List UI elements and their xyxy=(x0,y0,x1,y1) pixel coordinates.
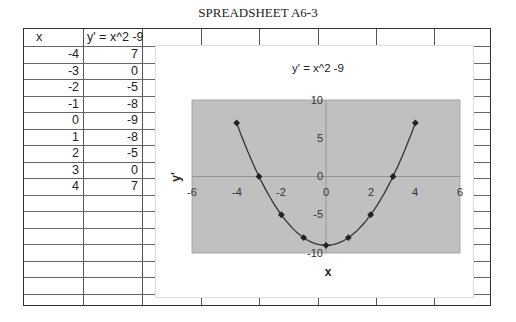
cell-x[interactable]: -3 xyxy=(24,63,79,79)
header-x: x xyxy=(36,29,42,45)
cell-x[interactable]: 2 xyxy=(24,145,79,161)
header-y: y' = x^2 -9 xyxy=(87,29,144,45)
y-tick-label: -5 xyxy=(313,208,323,220)
column-divider xyxy=(318,29,319,46)
y-tick-label: 0 xyxy=(317,170,323,182)
page-title: SPREADSHEET A6-3 xyxy=(0,5,516,21)
chart-title: y' = x^2 -9 xyxy=(292,62,344,74)
cell-x[interactable]: -4 xyxy=(24,46,79,62)
x-tick-label: 2 xyxy=(368,186,374,198)
column-divider xyxy=(201,29,202,46)
cell-y[interactable]: 7 xyxy=(83,46,138,62)
y-tick-label: -10 xyxy=(307,247,323,259)
column-divider xyxy=(259,29,260,46)
cell-y[interactable]: 7 xyxy=(83,178,138,194)
x-tick-label: 0 xyxy=(323,186,329,198)
cell-y[interactable]: 0 xyxy=(83,162,138,178)
cell-x[interactable]: 4 xyxy=(24,178,79,194)
y-tick-label: 10 xyxy=(311,94,323,106)
y-axis-title: y' xyxy=(169,172,183,182)
x-tick-label: -2 xyxy=(276,186,286,198)
cell-y[interactable]: -5 xyxy=(83,79,138,95)
column-divider xyxy=(142,29,143,305)
column-divider xyxy=(376,29,377,46)
chart-svg: y' = x^2 -9 10 5 0 -5 -10 -6 -4 -2 0 2 4… xyxy=(156,46,475,299)
x-tick-label: -4 xyxy=(232,186,242,198)
column-divider xyxy=(434,29,435,46)
y-tick-label: 5 xyxy=(317,132,323,144)
cell-x[interactable]: 3 xyxy=(24,162,79,178)
cell-y[interactable]: -5 xyxy=(83,145,138,161)
cell-x[interactable]: -2 xyxy=(24,79,79,95)
embedded-chart[interactable]: y' = x^2 -9 10 5 0 -5 -10 -6 -4 -2 0 2 4… xyxy=(155,45,474,298)
cell-x[interactable]: 0 xyxy=(24,112,79,128)
cell-x[interactable]: -1 xyxy=(24,96,79,112)
cell-y[interactable]: -8 xyxy=(83,96,138,112)
cell-x[interactable]: 1 xyxy=(24,129,79,145)
x-tick-label: -6 xyxy=(187,186,197,198)
cell-y[interactable]: -9 xyxy=(83,112,138,128)
x-tick-label: 4 xyxy=(412,186,418,198)
cell-y[interactable]: 0 xyxy=(83,63,138,79)
x-tick-label: 6 xyxy=(457,186,463,198)
x-axis-title: x xyxy=(325,265,332,279)
cell-y[interactable]: -8 xyxy=(83,129,138,145)
